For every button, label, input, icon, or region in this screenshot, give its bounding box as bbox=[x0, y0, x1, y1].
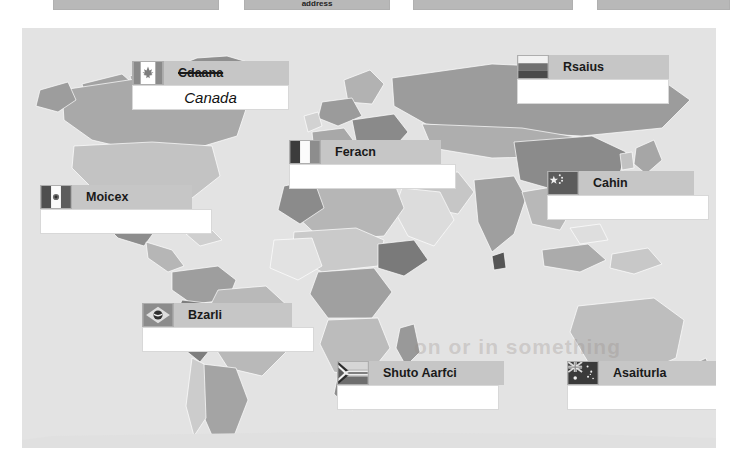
country-label-group-mexico[interactable]: Moicex bbox=[40, 185, 212, 234]
country-name-row-france[interactable]: Feracn bbox=[289, 140, 441, 164]
russia-flag bbox=[517, 55, 549, 79]
answer-input-australia[interactable] bbox=[567, 385, 716, 410]
answer-input-china[interactable] bbox=[547, 195, 709, 220]
china-flag bbox=[547, 171, 579, 195]
country-scrambled-label-china: Cahin bbox=[579, 171, 694, 195]
country-name-row-south-africa[interactable]: Shuto Aarfci bbox=[337, 361, 504, 385]
country-name-row-mexico[interactable]: Moicex bbox=[40, 185, 192, 209]
country-scrambled-label-russia: Rsaius bbox=[549, 55, 669, 79]
toolbar: address bbox=[0, 0, 734, 11]
france-flag bbox=[289, 140, 321, 164]
mexico-flag bbox=[40, 185, 72, 209]
toolbar-cell-3[interactable] bbox=[413, 0, 573, 10]
country-name-row-brazil[interactable]: Bzarli bbox=[142, 303, 292, 327]
country-name-row-russia[interactable]: Rsaius bbox=[517, 55, 669, 79]
slide-editor-window: address bbox=[0, 0, 734, 464]
country-name-row-china[interactable]: Cahin bbox=[547, 171, 694, 195]
answer-input-brazil[interactable] bbox=[142, 327, 314, 352]
answer-input-south-africa[interactable] bbox=[337, 385, 499, 410]
country-label-group-brazil[interactable]: Bzarli bbox=[142, 303, 314, 352]
country-name-row-canada[interactable]: Cdaana bbox=[132, 61, 289, 85]
country-scrambled-label-south-africa: Shuto Aarfci bbox=[369, 361, 504, 385]
brazil-flag bbox=[142, 303, 174, 327]
answer-input-canada[interactable]: Canada bbox=[132, 85, 289, 110]
country-label-group-france[interactable]: Feracn bbox=[289, 140, 456, 189]
south-africa-flag bbox=[337, 361, 369, 385]
country-label-group-china[interactable]: Cahin bbox=[547, 171, 709, 220]
toolbar-cell-4[interactable] bbox=[597, 0, 730, 10]
country-scrambled-label-canada: Cdaana bbox=[164, 61, 289, 85]
canada-flag bbox=[132, 61, 164, 85]
answer-input-russia[interactable] bbox=[517, 79, 669, 104]
country-label-group-canada[interactable]: CdaanaCanada bbox=[132, 61, 289, 110]
country-label-group-russia[interactable]: Rsaius bbox=[517, 55, 669, 104]
country-scrambled-label-mexico: Moicex bbox=[72, 185, 192, 209]
background-watermark-text: on or in something bbox=[414, 335, 621, 359]
australia-flag bbox=[567, 361, 599, 385]
country-scrambled-label-brazil: Bzarli bbox=[174, 303, 292, 327]
country-label-group-australia[interactable]: Asaiturla bbox=[567, 361, 716, 410]
country-label-group-south-africa[interactable]: Shuto Aarfci bbox=[337, 361, 504, 410]
answer-input-france[interactable] bbox=[289, 164, 456, 189]
country-scrambled-label-australia: Asaiturla bbox=[599, 361, 716, 385]
answer-input-mexico[interactable] bbox=[40, 209, 212, 234]
slide-canvas[interactable]: on or in something CdaanaCanadaRsaiusFer… bbox=[22, 28, 716, 448]
toolbar-cell-1[interactable] bbox=[53, 0, 219, 10]
country-name-row-australia[interactable]: Asaiturla bbox=[567, 361, 716, 385]
toolbar-cell-2[interactable]: address bbox=[244, 0, 390, 10]
country-scrambled-label-france: Feracn bbox=[321, 140, 441, 164]
